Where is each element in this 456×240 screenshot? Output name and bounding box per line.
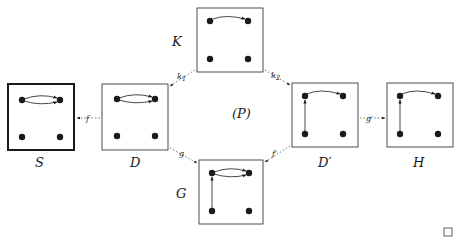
graph-D: D <box>102 84 168 170</box>
morphism-k1: k1 <box>170 70 195 86</box>
node-icon <box>340 93 346 99</box>
node-icon <box>209 170 215 176</box>
edge-arrow-icon <box>119 95 152 98</box>
graph-box-S <box>8 84 74 150</box>
graph-box-H <box>387 83 453 147</box>
morphism-arrow-icon <box>265 146 290 162</box>
node-icon <box>207 18 213 24</box>
node-icon <box>152 96 158 102</box>
edge-arrow-icon <box>213 17 245 20</box>
graph-G: G <box>176 160 263 224</box>
morphism-label-f: f <box>85 114 91 123</box>
node-icon <box>397 131 403 137</box>
node-icon <box>435 131 441 137</box>
edge-arrow-icon <box>214 174 246 177</box>
node-icon <box>114 133 120 139</box>
node-icon <box>435 93 441 99</box>
graph-box-G <box>199 160 263 224</box>
morphism-f: f <box>77 114 100 123</box>
diagram-canvas: S D K G <box>0 0 456 240</box>
graph-box-D <box>102 84 168 150</box>
graph-label-Dprime: D′ <box>317 155 331 170</box>
node-icon <box>245 56 251 62</box>
graph-S: S <box>8 84 74 170</box>
morphism-label-k1: k1 <box>177 72 186 83</box>
node-icon <box>114 96 120 102</box>
morphism-label-gprime: g′ <box>366 114 373 123</box>
graph-label-H: H <box>412 155 425 170</box>
pushout-label: (P) <box>232 106 251 121</box>
morphism-label-k2: k2 <box>271 71 281 82</box>
morphism-gprime: g′ <box>360 114 385 123</box>
edge-arrow-icon <box>307 91 340 94</box>
qed-square-icon <box>444 228 452 236</box>
morphism-label-g: g <box>179 149 184 158</box>
graph-label-S: S <box>35 155 44 170</box>
morphism-label-fprime: f′ <box>271 149 277 158</box>
graph-label-D: D <box>129 155 141 170</box>
node-icon <box>207 56 213 62</box>
graph-Dprime: D′ <box>292 83 358 170</box>
node-icon <box>57 97 63 103</box>
graph-H: H <box>387 83 453 170</box>
node-icon <box>245 18 251 24</box>
edge-arrow-icon <box>24 96 57 99</box>
morphism-fprime: f′ <box>265 146 290 162</box>
graph-K: K <box>171 8 263 72</box>
node-icon <box>246 170 252 176</box>
node-icon <box>57 134 63 140</box>
node-icon <box>246 208 252 214</box>
node-icon <box>19 134 25 140</box>
edge-arrow-icon <box>402 91 435 94</box>
graph-label-G: G <box>176 186 186 201</box>
graph-label-K: K <box>171 34 183 49</box>
morphism-g: g <box>170 148 197 163</box>
graph-box-Dprime <box>292 83 358 147</box>
node-icon <box>152 133 158 139</box>
node-icon <box>302 131 308 137</box>
morphism-k2: k2 <box>265 70 290 85</box>
edge-arrow-icon <box>119 100 152 103</box>
edge-arrow-icon <box>24 101 57 104</box>
graph-box-K <box>197 8 263 72</box>
node-icon <box>19 97 25 103</box>
node-icon <box>209 208 215 214</box>
edge-arrow-icon <box>214 169 246 172</box>
node-icon <box>340 131 346 137</box>
